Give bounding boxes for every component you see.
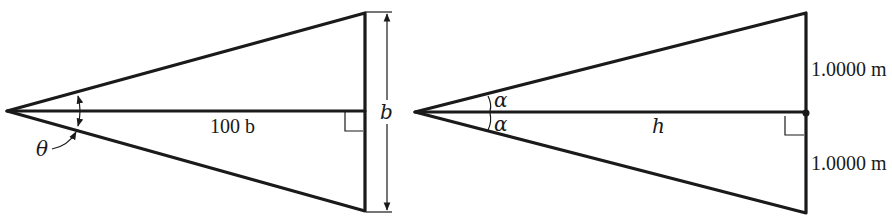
alpha-label-top: α [494, 88, 508, 112]
diagram-canvas: θ 100 b b α α h 1.0000 m 1.0000 m [0, 0, 892, 222]
h-label: h [652, 114, 665, 138]
alpha-arc-top [488, 96, 491, 111]
lower-half-length-label: 1.0000 m [811, 152, 887, 174]
theta-label: θ [36, 137, 48, 161]
length-label-100b: 100 b [210, 115, 255, 137]
b-label: b [380, 100, 393, 124]
upper-half-length-label: 1.0000 m [811, 58, 887, 80]
alpha-arc-bottom [488, 113, 491, 130]
left-right-angle-marker [345, 111, 363, 131]
right-triangle-figure: α α h 1.0000 m 1.0000 m [415, 13, 887, 213]
left-triangle-figure: θ 100 b b [7, 12, 393, 212]
right-right-angle-marker [785, 116, 804, 135]
alpha-label-bottom: α [494, 112, 508, 136]
theta-leader [52, 132, 76, 149]
midpoint-dot [803, 110, 810, 117]
